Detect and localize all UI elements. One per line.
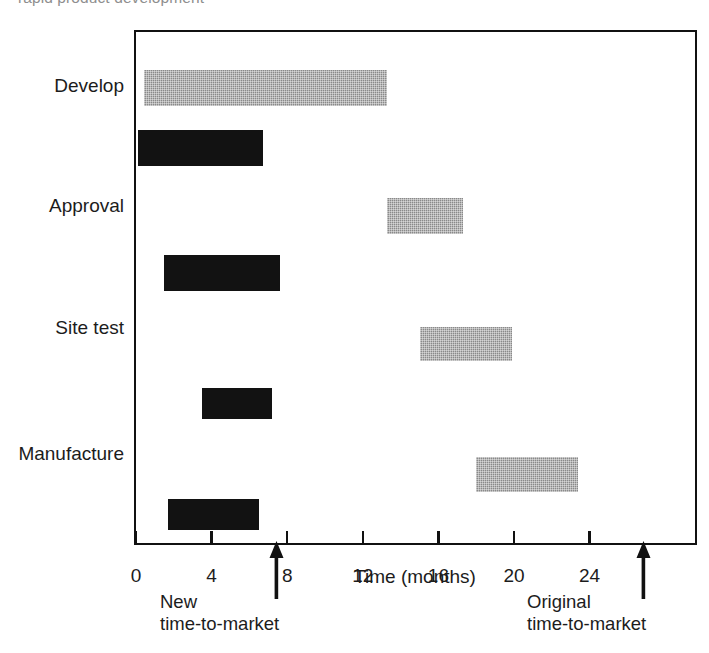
annotation-label-original-ttm: Originaltime-to-market — [527, 591, 646, 635]
x-tick-24 — [588, 531, 591, 545]
chart-canvas: rapid product development Develop Approv… — [0, 0, 709, 653]
gantt-bar-develop-new — [138, 130, 263, 166]
x-tick-0 — [135, 531, 138, 545]
annotation-label-new-ttm: Newtime-to-market — [160, 591, 279, 635]
gantt-bar-approval-new — [164, 255, 279, 291]
category-label-develop: Develop — [54, 75, 124, 97]
x-tick-label-4: 4 — [206, 565, 217, 587]
category-label-approval: Approval — [49, 195, 124, 217]
x-tick-label-0: 0 — [131, 565, 142, 587]
gantt-bar-manufacture-new — [168, 499, 259, 530]
gantt-bar-site-test-new — [202, 388, 272, 419]
x-tick-16 — [437, 531, 440, 545]
x-tick-12 — [362, 531, 365, 545]
category-axis-labels: Develop Approval Site test Manufacture — [0, 0, 128, 653]
gantt-bar-site-test-original — [420, 327, 513, 361]
gantt-bar-develop-original — [144, 70, 388, 106]
annotation-label-new-ttm-line1: New — [160, 591, 279, 613]
category-label-site-test: Site test — [55, 317, 124, 339]
annotation-label-original-ttm-line2: time-to-market — [527, 613, 646, 635]
annotation-label-new-ttm-line2: time-to-market — [160, 613, 279, 635]
x-axis-title: Time (months) — [354, 566, 476, 588]
annotation-label-original-ttm-line1: Original — [527, 591, 646, 613]
gantt-bar-manufacture-original — [476, 457, 578, 492]
category-label-manufacture: Manufacture — [18, 443, 124, 465]
x-tick-label-20: 20 — [503, 565, 524, 587]
x-tick-4 — [210, 531, 213, 545]
plot-frame — [134, 30, 697, 545]
x-tick-20 — [513, 531, 516, 545]
x-tick-label-24: 24 — [579, 565, 600, 587]
gantt-bar-approval-original — [387, 198, 463, 234]
